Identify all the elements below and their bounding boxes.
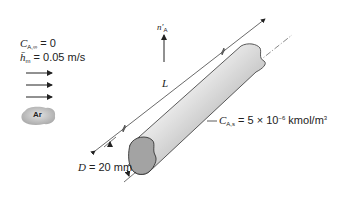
gas-label: Ar [33,111,42,119]
flow-arrows [26,73,52,97]
surface-concentration-label: CA,s = 5 × 10−6 kmol/m3 [219,115,327,127]
diameter-label: D = 20 mm [78,162,132,173]
length-label: L [162,78,168,89]
free-stream-concentration-label: CA,∞ = 0 [20,38,56,50]
flux-label: n′A [157,23,167,33]
mass-transfer-coefficient-label: h̄m = 0.05 m/s [20,52,85,64]
cylinder-end-face [129,137,156,174]
diagram-canvas [0,0,338,198]
